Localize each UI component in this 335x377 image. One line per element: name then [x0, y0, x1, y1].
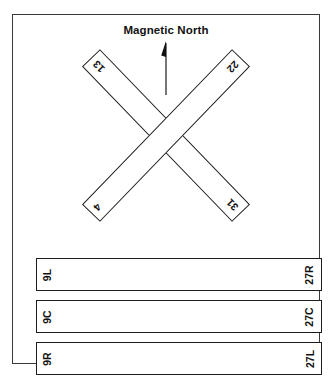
runway-4-threshold-label: 4 — [91, 201, 103, 212]
parallel-runways: 9L 27R 9C 27C 9R 27L — [36, 258, 322, 375]
runway-9L-27R: 9L 27R — [36, 258, 322, 291]
runway-13-threshold-label: 13 — [91, 58, 107, 74]
diagram-frame: Magnetic North 13 31 4 22 9L 27R — [12, 14, 320, 364]
runway-9R-threshold-label: 9R — [42, 352, 53, 365]
runway-27L-threshold-label: 27L — [305, 349, 316, 367]
runway-22-threshold-label: 22 — [225, 58, 241, 74]
runway-9R-27L: 9R 27L — [36, 342, 322, 375]
runway-27C-threshold-label: 27C — [304, 307, 315, 326]
runway-9L-threshold-label: 9L — [42, 268, 53, 280]
runway-31-threshold-label: 31 — [225, 197, 241, 213]
runway-9C-threshold-label: 9C — [42, 310, 53, 323]
runway-diagram: Magnetic North 13 31 4 22 9L 27R — [0, 0, 335, 377]
runway-27R-threshold-label: 27R — [304, 265, 315, 284]
runway-9C-27C: 9C 27C — [36, 300, 322, 333]
